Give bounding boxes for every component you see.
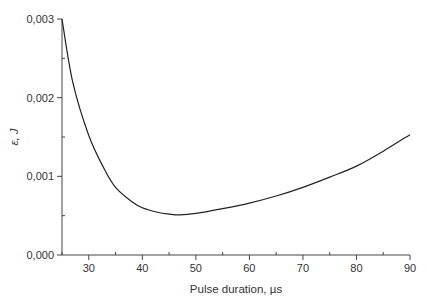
- line-chart: 0,0000,0010,0020,003 30405060708090 Puls…: [0, 0, 428, 306]
- x-tick-label: 80: [350, 262, 362, 274]
- x-tick-label: 50: [190, 262, 202, 274]
- y-tick-label: 0,001: [26, 170, 54, 182]
- x-tick-label: 60: [243, 262, 255, 274]
- x-tick-label: 30: [83, 262, 95, 274]
- axes: [62, 19, 410, 255]
- y-tick-label: 0,000: [26, 249, 54, 261]
- x-tick-label: 90: [404, 262, 416, 274]
- y-axis-ticks: 0,0000,0010,0020,003: [26, 13, 65, 261]
- data-line: [62, 19, 410, 215]
- y-axis-label: ε, J: [8, 128, 20, 145]
- x-tick-label: 70: [297, 262, 309, 274]
- x-axis-label: Pulse duration, µs: [190, 283, 283, 295]
- y-tick-label: 0,002: [26, 92, 54, 104]
- x-tick-label: 40: [136, 262, 148, 274]
- y-tick-label: 0,003: [26, 13, 54, 25]
